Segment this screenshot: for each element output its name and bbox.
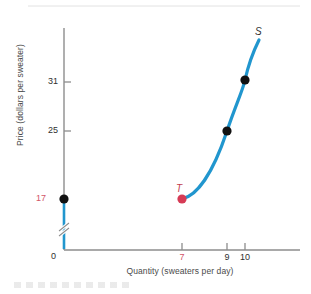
- chart-svg: [0, 0, 311, 294]
- marker-point-t: [177, 194, 186, 203]
- y-tick-label-31: 31: [34, 76, 58, 86]
- origin-label: 0: [51, 251, 56, 261]
- y-tick-label-25: 25: [34, 125, 58, 135]
- supply-curve-label: S: [255, 26, 262, 37]
- x-tick-label-9: 9: [217, 252, 237, 262]
- chart-canvas: Price (dollars per sweater) Quantity (sw…: [0, 0, 311, 294]
- marker-10-31: [240, 75, 249, 84]
- marker-price-17: [59, 194, 68, 203]
- y-axis-title: Price (dollars per sweater): [15, 30, 25, 160]
- y-tick-label-17: 17: [36, 193, 46, 203]
- supply-curve: [182, 40, 259, 199]
- x-axis-title: Quantity (sweaters per day): [126, 266, 233, 276]
- marker-9-25: [222, 126, 231, 135]
- x-tick-label-7: 7: [172, 252, 192, 262]
- page-footer-artifact: [14, 282, 134, 288]
- x-tick-label-10: 10: [235, 252, 255, 262]
- point-t-label: T: [176, 183, 182, 194]
